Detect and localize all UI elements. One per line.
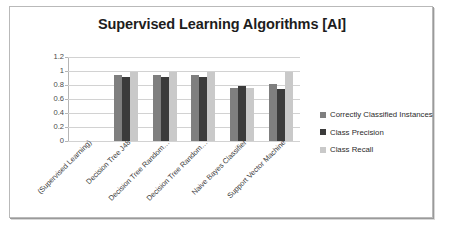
legend-label: Class Recall — [330, 145, 373, 154]
bar[interactable] — [153, 75, 161, 141]
gridline — [68, 85, 300, 86]
y-axis-tick — [65, 85, 68, 86]
y-axis-tick-label: 0 — [18, 137, 64, 145]
gridline — [68, 113, 300, 114]
bar-group — [191, 57, 215, 141]
bar[interactable] — [130, 72, 138, 141]
legend-swatch-icon — [320, 112, 326, 118]
legend-item[interactable]: Class Precision — [320, 128, 450, 137]
y-axis-tick-label: 0.2 — [18, 123, 64, 131]
bar[interactable] — [230, 88, 238, 141]
legend-item[interactable]: Class Recall — [320, 145, 450, 154]
bar[interactable] — [285, 72, 293, 141]
bar[interactable] — [277, 89, 285, 141]
bar-group — [114, 57, 138, 141]
legend-label: Class Precision — [330, 128, 384, 137]
chart-legend: Correctly Classified InstancesClass Prec… — [320, 110, 450, 163]
y-axis-tick — [65, 71, 68, 72]
y-axis-tick — [65, 113, 68, 114]
chart-container: Supervised Learning Algorithms [AI] 1.21… — [9, 6, 433, 218]
y-axis-tick-label: 1.2 — [18, 53, 64, 61]
gridline — [68, 57, 300, 58]
y-axis-tick — [65, 99, 68, 100]
y-axis-tick — [65, 57, 68, 58]
bar[interactable] — [199, 77, 207, 141]
y-axis-tick-label: 1 — [18, 67, 64, 75]
bar-group — [269, 57, 293, 141]
gridline — [68, 99, 300, 100]
y-axis-tick-label: 0.8 — [18, 81, 64, 89]
bar[interactable] — [191, 75, 199, 141]
bar-group — [153, 57, 177, 141]
legend-swatch-icon — [320, 129, 326, 135]
gridline — [68, 141, 300, 142]
gridline — [68, 71, 300, 72]
y-axis-tick — [65, 141, 68, 142]
gridline — [68, 127, 300, 128]
y-axis-tick — [65, 127, 68, 128]
bar[interactable] — [238, 86, 246, 141]
chart-screenshot: Supervised Learning Algorithms [AI] 1.21… — [0, 0, 452, 231]
bar-group — [75, 57, 99, 141]
bar-group — [230, 57, 254, 141]
legend-swatch-icon — [320, 147, 326, 153]
bar[interactable] — [169, 72, 177, 141]
bar[interactable] — [207, 72, 215, 141]
plot-area — [68, 57, 300, 141]
bar[interactable] — [269, 84, 277, 141]
bar[interactable] — [122, 77, 130, 141]
y-axis-tick-label: 0.6 — [18, 95, 64, 103]
y-axis-labels: 1.210.80.60.40.20 — [14, 57, 64, 141]
y-axis-tick-label: 0.4 — [18, 109, 64, 117]
bar[interactable] — [161, 77, 169, 141]
chart-title: Supervised Learning Algorithms [AI] — [10, 16, 434, 32]
legend-item[interactable]: Correctly Classified Instances — [320, 110, 450, 119]
bar[interactable] — [114, 75, 122, 141]
legend-label: Correctly Classified Instances — [330, 110, 433, 119]
bar[interactable] — [246, 88, 254, 141]
